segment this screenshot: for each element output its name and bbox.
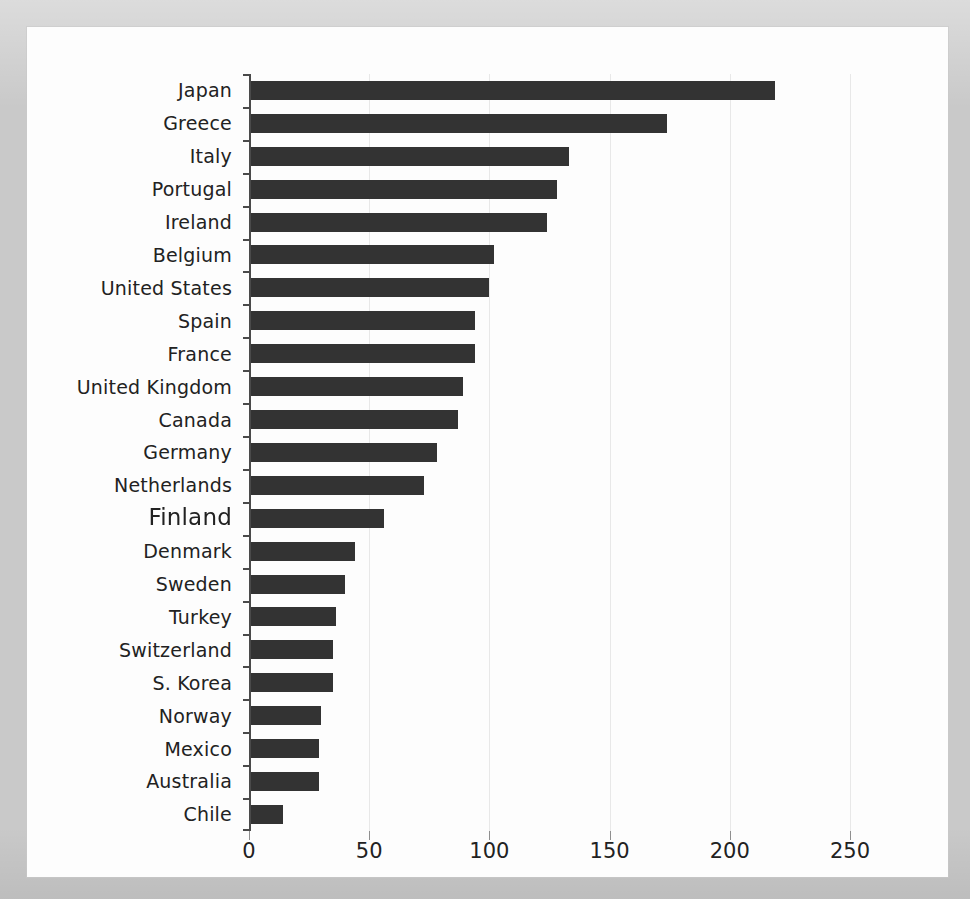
- bar-row[interactable]: [249, 403, 874, 436]
- y-axis-label-switzerland: Switzerland: [27, 633, 243, 666]
- bar-switzerland[interactable]: [249, 640, 333, 659]
- y-axis-tick: [243, 436, 249, 438]
- bar-row[interactable]: [249, 436, 874, 469]
- y-axis-tick: [243, 535, 249, 537]
- y-axis-tick: [243, 601, 249, 603]
- bar-row[interactable]: [249, 370, 874, 403]
- y-axis-tick: [243, 140, 249, 142]
- bar-row[interactable]: [249, 798, 874, 831]
- bar-denmark[interactable]: [249, 542, 355, 561]
- bar-france[interactable]: [249, 344, 475, 363]
- plot-area: [249, 74, 874, 831]
- y-axis-tick: [243, 74, 249, 76]
- bar-sweden[interactable]: [249, 575, 345, 594]
- y-axis-label-s-korea: S. Korea: [27, 666, 243, 699]
- y-axis-tick: [243, 337, 249, 339]
- bar-belgium[interactable]: [249, 245, 494, 264]
- x-axis-tick-label-150: 150: [590, 839, 630, 863]
- bar-ireland[interactable]: [249, 213, 547, 232]
- y-axis-label-sweden: Sweden: [27, 568, 243, 601]
- y-axis-label-netherlands: Netherlands: [27, 469, 243, 502]
- bar-series: [249, 74, 874, 831]
- bar-row[interactable]: [249, 502, 874, 535]
- bar-mexico[interactable]: [249, 739, 319, 758]
- y-axis-label-denmark: Denmark: [27, 535, 243, 568]
- y-axis-label-australia: Australia: [27, 765, 243, 798]
- y-axis-label-germany: Germany: [27, 436, 243, 469]
- y-axis-label-canada: Canada: [27, 403, 243, 436]
- bar-row[interactable]: [249, 535, 874, 568]
- bar-row[interactable]: [249, 74, 874, 107]
- y-axis-tick: [243, 634, 249, 636]
- chart-figure-panel: JapanGreeceItalyPortugalIrelandBelgiumUn…: [27, 27, 948, 877]
- bar-s-korea[interactable]: [249, 673, 333, 692]
- y-axis-label-belgium: Belgium: [27, 239, 243, 272]
- bar-greece[interactable]: [249, 114, 667, 133]
- bar-turkey[interactable]: [249, 607, 336, 626]
- y-axis-tick: [243, 666, 249, 668]
- bar-netherlands[interactable]: [249, 476, 424, 495]
- y-axis-tick: [243, 370, 249, 372]
- bar-row[interactable]: [249, 107, 874, 140]
- y-axis-label-greece: Greece: [27, 107, 243, 140]
- y-axis-label-norway: Norway: [27, 699, 243, 732]
- x-axis-tick-label-250: 250: [830, 839, 870, 863]
- y-axis-label-spain: Spain: [27, 304, 243, 337]
- bar-spain[interactable]: [249, 311, 475, 330]
- bar-portugal[interactable]: [249, 180, 557, 199]
- y-axis-tick: [243, 502, 249, 504]
- bar-row[interactable]: [249, 633, 874, 666]
- bar-row[interactable]: [249, 239, 874, 272]
- bar-italy[interactable]: [249, 147, 569, 166]
- bar-australia[interactable]: [249, 772, 319, 791]
- bar-row[interactable]: [249, 337, 874, 370]
- bar-row[interactable]: [249, 140, 874, 173]
- x-axis-tick-labels: 050100150200250: [249, 839, 874, 873]
- y-axis-tick: [243, 568, 249, 570]
- bar-row[interactable]: [249, 666, 874, 699]
- y-axis-tick: [243, 765, 249, 767]
- y-axis-label-chile: Chile: [27, 798, 243, 831]
- y-axis-label-united-states: United States: [27, 271, 243, 304]
- bar-canada[interactable]: [249, 410, 458, 429]
- x-axis-tick-label-0: 0: [242, 839, 255, 863]
- bar-chile[interactable]: [249, 805, 283, 824]
- y-axis-tick: [243, 206, 249, 208]
- bar-row[interactable]: [249, 206, 874, 239]
- y-axis-tick: [243, 271, 249, 273]
- y-axis-label-mexico: Mexico: [27, 732, 243, 765]
- y-axis-label-portugal: Portugal: [27, 173, 243, 206]
- y-axis-tick: [243, 469, 249, 471]
- y-axis-labels: JapanGreeceItalyPortugalIrelandBelgiumUn…: [27, 74, 243, 831]
- y-axis-tick: [243, 173, 249, 175]
- y-axis-label-ireland: Ireland: [27, 206, 243, 239]
- y-axis-tick: [243, 107, 249, 109]
- bar-norway[interactable]: [249, 706, 321, 725]
- bar-united-kingdom[interactable]: [249, 377, 463, 396]
- y-axis-spine: [249, 74, 251, 831]
- y-axis-label-turkey: Turkey: [27, 601, 243, 634]
- bar-japan[interactable]: [249, 81, 775, 100]
- bar-row[interactable]: [249, 765, 874, 798]
- bar-row[interactable]: [249, 304, 874, 337]
- bar-united-states[interactable]: [249, 278, 489, 297]
- bar-row[interactable]: [249, 173, 874, 206]
- bar-row[interactable]: [249, 601, 874, 634]
- y-axis-label-italy: Italy: [27, 140, 243, 173]
- bar-finland[interactable]: [249, 509, 384, 528]
- bar-row[interactable]: [249, 469, 874, 502]
- x-axis-tick-label-50: 50: [356, 839, 383, 863]
- bar-row[interactable]: [249, 699, 874, 732]
- bar-row[interactable]: [249, 732, 874, 765]
- screenshot-root: JapanGreeceItalyPortugalIrelandBelgiumUn…: [0, 0, 970, 899]
- bar-row[interactable]: [249, 271, 874, 304]
- y-axis-label-finland: Finland: [27, 501, 243, 534]
- y-axis-tick: [243, 304, 249, 306]
- bar-germany[interactable]: [249, 443, 437, 462]
- x-axis-tick-label-100: 100: [469, 839, 509, 863]
- y-axis-tick: [243, 403, 249, 405]
- y-axis-ticks: [243, 74, 249, 831]
- bar-row[interactable]: [249, 568, 874, 601]
- y-axis-tick: [243, 699, 249, 701]
- y-axis-label-united-kingdom: United Kingdom: [27, 370, 243, 403]
